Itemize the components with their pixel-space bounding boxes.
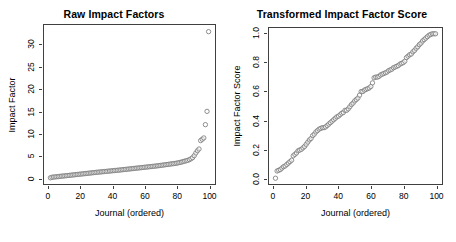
x-tick-label: 80 (399, 191, 408, 201)
figure-canvas: Raw Impact Factors 020406080100051015202… (0, 0, 456, 242)
y-tick-label: 15 (26, 107, 36, 116)
y-axis-title: Impact Factor Score (232, 65, 242, 146)
x-axis-title: Journal (ordered) (95, 208, 164, 218)
y-tick-label: 5 (26, 154, 36, 159)
y-tick (39, 179, 42, 180)
x-tick-label: 0 (271, 191, 276, 201)
panel-title-right: Transformed Impact Factor Score (228, 8, 456, 20)
y-tick (264, 62, 267, 63)
y-tick (264, 121, 267, 122)
x-tick-label: 60 (140, 191, 149, 201)
x-tick (113, 186, 114, 189)
y-tick (39, 67, 42, 68)
x-tick (338, 186, 339, 189)
y-tick-label: 0.8 (251, 56, 261, 68)
x-tick-label: 100 (429, 191, 443, 201)
scatter-points-right (269, 28, 442, 184)
x-tick-label: 40 (334, 191, 343, 201)
x-tick (404, 186, 405, 189)
y-tick (39, 44, 42, 45)
y-tick-label: 30 (26, 39, 36, 48)
y-tick-label: 0.2 (251, 144, 261, 156)
plot-area-right (268, 27, 443, 185)
x-tick (273, 186, 274, 189)
y-tick-label: 0 (26, 176, 36, 181)
x-tick (177, 186, 178, 189)
chart-panel-transformed-impact-factor-score: Transformed Impact Factor Score 02040608… (228, 0, 456, 242)
x-tick (210, 186, 211, 189)
y-tick (39, 134, 42, 135)
y-tick (39, 156, 42, 157)
x-tick-label: 40 (108, 191, 117, 201)
y-tick (264, 91, 267, 92)
x-tick (306, 186, 307, 189)
panel-title-left: Raw Impact Factors (0, 8, 228, 20)
x-axis-title: Journal (ordered) (321, 208, 390, 218)
x-tick (145, 186, 146, 189)
y-tick-label: 20 (26, 84, 36, 93)
x-tick-label: 20 (301, 191, 310, 201)
y-axis-title: Impact Factor (7, 77, 17, 132)
plot-area-left (43, 24, 216, 185)
x-tick-label: 60 (366, 191, 375, 201)
x-tick (371, 186, 372, 189)
y-tick (39, 89, 42, 90)
x-tick-label: 80 (172, 191, 181, 201)
x-tick-label: 20 (75, 191, 84, 201)
y-tick-label: 0.4 (251, 115, 261, 127)
y-tick-label: 0.6 (251, 85, 261, 97)
y-tick (264, 179, 267, 180)
y-tick (264, 150, 267, 151)
x-tick (80, 186, 81, 189)
x-tick-label: 100 (202, 191, 216, 201)
x-tick (437, 186, 438, 189)
y-tick (39, 112, 42, 113)
y-tick-label: 10 (26, 129, 36, 138)
x-tick (48, 186, 49, 189)
x-tick-label: 0 (46, 191, 51, 201)
y-tick (264, 33, 267, 34)
scatter-points-left (44, 25, 215, 184)
chart-panel-raw-impact-factors: Raw Impact Factors 020406080100051015202… (0, 0, 228, 242)
y-tick-label: 25 (26, 62, 36, 71)
y-tick-label: 1.0 (251, 27, 261, 39)
y-tick-label: 0.0 (251, 173, 261, 185)
